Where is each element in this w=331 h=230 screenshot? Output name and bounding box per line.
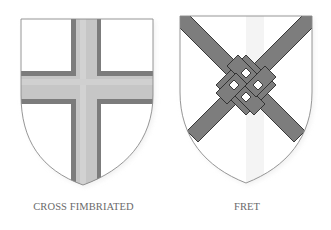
fret-figure: FRET bbox=[165, 0, 331, 230]
fret-caption: FRET bbox=[227, 201, 267, 212]
cross-fimbriated-shield-icon bbox=[0, 0, 165, 230]
fret-shield-icon bbox=[165, 0, 331, 230]
cross-fimbriated-caption: CROSS FIMBRIATED bbox=[20, 201, 147, 212]
cross-fimbriated-figure: CROSS FIMBRIATED bbox=[0, 0, 165, 230]
